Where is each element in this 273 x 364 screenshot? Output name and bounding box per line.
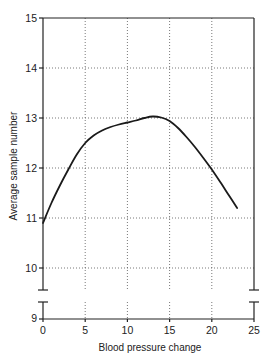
x-tick-0: 0 (40, 324, 46, 336)
line-chart: 9 10 11 12 13 14 15 0 5 10 15 20 25 Bloo… (0, 0, 273, 364)
y-tick-9: 9 (31, 312, 37, 324)
x-tick-10: 10 (122, 324, 134, 336)
axes-frame (38, 18, 259, 322)
x-tick-25: 25 (248, 324, 260, 336)
x-axis-label: Blood pressure change (99, 342, 202, 353)
y-axis-label: Average sample number (8, 111, 19, 220)
y-tick-14: 14 (25, 62, 37, 74)
y-tick-labels: 9 10 11 12 13 14 15 (25, 12, 37, 324)
x-tick-15: 15 (164, 324, 176, 336)
y-tick-12: 12 (25, 162, 37, 174)
data-curve (43, 116, 237, 223)
y-tick-15: 15 (25, 12, 37, 24)
x-tick-labels: 0 5 10 15 20 25 (40, 324, 260, 336)
x-tick-20: 20 (206, 324, 218, 336)
y-tick-11: 11 (26, 212, 37, 224)
grid-lines (43, 18, 254, 319)
y-tick-10: 10 (25, 262, 37, 274)
x-tick-5: 5 (82, 324, 88, 336)
y-tick-13: 13 (25, 112, 37, 124)
